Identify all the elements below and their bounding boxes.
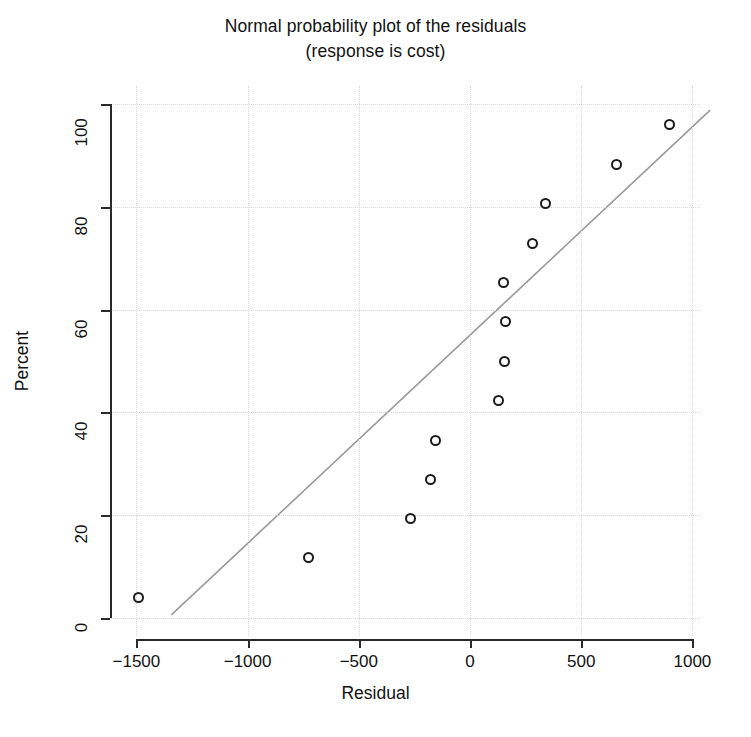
gridline-horizontal [104,515,700,516]
gridline-horizontal [104,310,700,311]
data-point [303,552,314,563]
data-point [500,316,511,327]
y-axis-tick [101,310,110,312]
chart-subtitle: (response is cost) [0,39,751,64]
y-axis-tick [101,412,110,414]
y-axis-tick-label-text: 20 [72,525,92,544]
y-axis-tick [101,104,110,106]
x-axis-tick-label-text: 0 [465,652,474,672]
y-axis-tick [101,618,110,620]
gridline-horizontal [104,104,700,105]
gridline-vertical [692,86,693,636]
y-axis-tick-label-text: 60 [72,319,92,338]
x-axis-tick-label-text: −500 [340,652,378,672]
y-axis-tick-label-text: 0 [72,623,92,632]
data-point [540,198,551,209]
y-axis-tick [101,207,110,209]
data-point [498,277,509,288]
data-point [664,119,675,130]
x-axis-tick-label-text: 1000 [673,652,711,672]
y-axis-line [110,104,112,618]
gridline-vertical [136,86,137,636]
gridline-vertical [248,86,249,636]
gridline-vertical [581,86,582,636]
gridline-horizontal [104,412,700,413]
y-axis-tick-label-text: 100 [72,118,92,146]
x-axis-tick [359,639,361,648]
x-axis-tick [470,639,472,648]
x-axis-tick [136,639,138,648]
x-axis-tick-label-text: 500 [567,652,595,672]
y-axis-tick [101,515,110,517]
gridline-horizontal [104,618,700,619]
normal-probability-plot: Normal probability plot of the residuals… [0,0,751,737]
data-point [611,159,622,170]
x-axis-tick [692,639,694,648]
data-point [405,513,416,524]
data-point [493,395,504,406]
x-axis-tick-label-text: −1500 [113,652,161,672]
y-axis-tick-label-text: 40 [72,422,92,441]
gridline-horizontal [104,207,700,208]
data-point [425,474,436,485]
reference-line-svg [0,0,751,737]
x-axis-tick [581,639,583,648]
data-point [430,435,441,446]
plot-area [110,104,693,618]
y-axis-tick-label-text: 80 [72,216,92,235]
x-axis-tick [248,639,250,648]
reference-line [171,110,710,615]
data-point [499,356,510,367]
x-axis-line [137,639,693,641]
chart-title-main: Normal probability plot of the residuals [225,16,527,36]
x-axis-title: Residual [0,683,751,704]
chart-title: Normal probability plot of the residuals… [0,14,751,64]
gridline-vertical [470,86,471,636]
data-point [133,592,144,603]
gridline-vertical [359,86,360,636]
y-axis-title: Percent [12,331,33,391]
x-axis-tick-label-text: −1000 [224,652,272,672]
data-point [527,238,538,249]
